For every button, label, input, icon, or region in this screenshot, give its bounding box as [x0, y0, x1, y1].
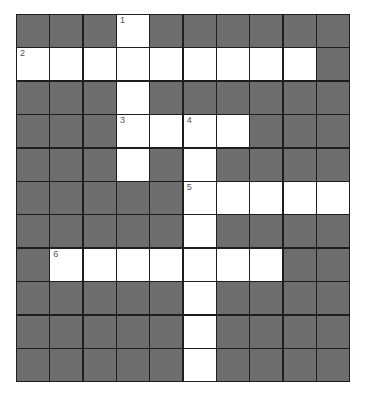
crossword-cell-open[interactable]: [84, 48, 116, 80]
crossword-cell-block: [117, 182, 149, 214]
crossword-cell-open[interactable]: [117, 149, 149, 181]
crossword-cell-open[interactable]: [117, 48, 149, 80]
crossword-cell-open[interactable]: 4: [184, 115, 216, 147]
crossword-cell-block: [217, 282, 249, 314]
crossword-cell-block: [284, 215, 316, 247]
crossword-cell-block: [84, 282, 116, 314]
crossword-cell-block: [250, 282, 282, 314]
crossword-cell-block: [284, 349, 316, 381]
clue-number: 6: [53, 250, 58, 259]
crossword-cell-block: [50, 82, 82, 114]
crossword-cell-block: [284, 15, 316, 47]
crossword-cell-block: [217, 82, 249, 114]
crossword-cell-open[interactable]: [184, 316, 216, 348]
crossword-cell-block: [317, 149, 349, 181]
clue-number: 4: [187, 116, 192, 125]
crossword-cell-block: [117, 282, 149, 314]
crossword-cell-open[interactable]: [150, 249, 182, 281]
crossword-cell-block: [17, 249, 49, 281]
crossword-cell-block: [284, 149, 316, 181]
crossword-cell-open[interactable]: 2: [17, 48, 49, 80]
crossword-cell-block: [17, 282, 49, 314]
crossword-cell-block: [84, 215, 116, 247]
crossword-cell-block: [17, 82, 49, 114]
crossword-cell-block: [150, 15, 182, 47]
crossword-cell-block: [250, 149, 282, 181]
crossword-cell-open[interactable]: [150, 48, 182, 80]
crossword-cell-block: [84, 349, 116, 381]
crossword-cell-open[interactable]: [117, 82, 149, 114]
crossword-cell-block: [50, 316, 82, 348]
crossword-cell-open[interactable]: [217, 249, 249, 281]
crossword-cell-block: [17, 349, 49, 381]
crossword-cell-block: [250, 15, 282, 47]
crossword-cell-open[interactable]: 3: [117, 115, 149, 147]
crossword-cell-block: [317, 15, 349, 47]
crossword-cell-block: [184, 15, 216, 47]
crossword-cell-open[interactable]: [184, 349, 216, 381]
crossword-cell-open[interactable]: [184, 215, 216, 247]
crossword-cell-open[interactable]: [250, 182, 282, 214]
crossword-cell-open[interactable]: [217, 48, 249, 80]
crossword-cell-block: [217, 215, 249, 247]
crossword-cell-open[interactable]: [250, 48, 282, 80]
crossword-cell-block: [150, 215, 182, 247]
crossword-cell-block: [50, 149, 82, 181]
crossword-cell-open[interactable]: [284, 182, 316, 214]
crossword-cell-open[interactable]: [250, 249, 282, 281]
crossword-cell-open[interactable]: [284, 48, 316, 80]
crossword-cell-open[interactable]: [150, 115, 182, 147]
crossword-cell-block: [17, 115, 49, 147]
crossword-cell-open[interactable]: 5: [184, 182, 216, 214]
crossword-cell-block: [50, 215, 82, 247]
crossword-cell-open[interactable]: [317, 182, 349, 214]
crossword-cell-open[interactable]: 6: [50, 249, 82, 281]
crossword-cell-block: [150, 349, 182, 381]
crossword-cell-block: [150, 82, 182, 114]
crossword-cell-block: [50, 15, 82, 47]
crossword-cell-block: [150, 149, 182, 181]
crossword-cell-open[interactable]: [184, 282, 216, 314]
crossword-cell-block: [250, 349, 282, 381]
crossword-cell-block: [217, 149, 249, 181]
clue-number: 2: [20, 49, 25, 58]
crossword-cell-block: [17, 316, 49, 348]
crossword-cell-block: [217, 349, 249, 381]
crossword-cell-open[interactable]: [184, 249, 216, 281]
crossword-cell-block: [317, 215, 349, 247]
crossword-cell-block: [150, 316, 182, 348]
crossword-cell-block: [217, 316, 249, 348]
crossword-cell-block: [284, 316, 316, 348]
crossword-cell-block: [50, 282, 82, 314]
crossword-cell-block: [117, 316, 149, 348]
crossword-cell-block: [84, 15, 116, 47]
crossword-cell-block: [317, 349, 349, 381]
crossword-cell-block: [17, 149, 49, 181]
crossword-cell-block: [84, 182, 116, 214]
crossword-cell-open[interactable]: [217, 115, 249, 147]
crossword-cell-open[interactable]: [84, 249, 116, 281]
crossword-cell-open[interactable]: [217, 182, 249, 214]
crossword-cell-block: [284, 115, 316, 147]
crossword-cell-block: [317, 249, 349, 281]
crossword-cell-block: [284, 282, 316, 314]
crossword-cell-block: [17, 15, 49, 47]
crossword-cell-block: [50, 349, 82, 381]
crossword-cell-open[interactable]: 1: [117, 15, 149, 47]
clue-number: 3: [120, 116, 125, 125]
crossword-cell-open[interactable]: [50, 48, 82, 80]
crossword-cell-block: [117, 349, 149, 381]
crossword-cell-block: [84, 115, 116, 147]
crossword-cell-block: [17, 182, 49, 214]
crossword-cell-open[interactable]: [117, 249, 149, 281]
crossword-cell-open[interactable]: [184, 48, 216, 80]
crossword-cell-block: [150, 282, 182, 314]
crossword-cell-block: [250, 82, 282, 114]
crossword-cell-block: [150, 182, 182, 214]
crossword-cell-open[interactable]: [184, 149, 216, 181]
crossword-cell-block: [250, 316, 282, 348]
crossword-cell-block: [84, 316, 116, 348]
crossword-grid: 123456: [16, 14, 350, 382]
crossword-cell-block: [317, 82, 349, 114]
crossword-cell-block: [50, 115, 82, 147]
